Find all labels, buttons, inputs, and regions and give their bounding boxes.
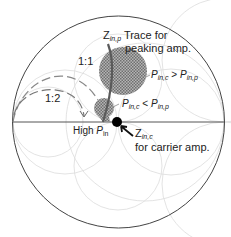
z-subscript: in,c	[142, 133, 153, 140]
p-symbol: P	[151, 98, 158, 109]
p-symbol: P	[151, 69, 158, 80]
p-subscript: in,c	[129, 103, 140, 110]
trace-title-symbol: Z	[103, 29, 110, 41]
small-region-label: Pin,c < Pin,p	[122, 99, 169, 110]
p-subscript: in,p	[187, 74, 198, 81]
carrier-impedance-dot	[112, 117, 122, 127]
carrier-arrow-icon	[121, 126, 133, 136]
trace-title-subscript: in,p	[110, 35, 121, 42]
large-region-label: Pin,c > Pin,p	[151, 70, 198, 81]
p-subscript: in,c	[158, 74, 169, 81]
p-symbol: P	[180, 69, 187, 80]
trace-title: Zin,p Trace for	[103, 30, 168, 42]
p-subscript: in	[103, 130, 108, 137]
ratio-1-2-label: 1:2	[45, 93, 60, 104]
trace-title-line2: peaking amp.	[125, 43, 191, 54]
ratio-1-1-label: 1:1	[78, 56, 93, 67]
p-subscript: in,p	[158, 103, 169, 110]
operator: <	[140, 98, 151, 109]
high-pin-label: High Pin	[73, 126, 108, 137]
p-symbol: P	[122, 98, 129, 109]
high-text: High	[73, 125, 96, 136]
operator: >	[169, 69, 180, 80]
large-shaded-region	[99, 47, 147, 95]
z-symbol: Z	[135, 127, 142, 139]
trace-title-text: Trace for	[121, 29, 167, 41]
carrier-impedance-label: Zin,c	[135, 128, 153, 140]
carrier-amp-label: for carrier amp.	[135, 142, 210, 153]
